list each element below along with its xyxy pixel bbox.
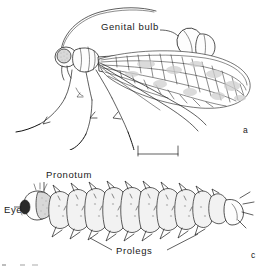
label-genital-bulb: Genital bulb (101, 22, 159, 32)
label-pronotum: Pronotum (46, 170, 92, 180)
label-prolegs: Prolegs (116, 246, 152, 256)
label-eye: Eye (4, 205, 22, 215)
prolegs-leader-left (90, 238, 112, 250)
scale-bar (133, 142, 193, 162)
prolegs-leader-right (167, 234, 198, 250)
genital-bulb-leader (160, 30, 178, 36)
cropped-caption-edge (2, 264, 48, 267)
panel-letter-a: a (243, 125, 248, 135)
figure-plate: Genital bulb Pronotum Eye Prolegs a c (0, 0, 279, 268)
panel-letter-c: c (251, 250, 255, 260)
